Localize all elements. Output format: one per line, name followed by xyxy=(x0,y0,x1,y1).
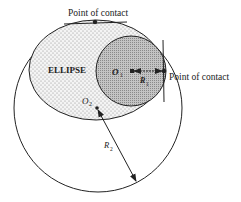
o2-subscript: 2 xyxy=(89,101,92,107)
o1-label: O xyxy=(112,67,119,77)
ellipse-circle-contact-diagram: Point of contact Point of contact ELLIPS… xyxy=(0,0,241,202)
top-contact-label: Point of contact xyxy=(68,8,129,18)
right-contact-point xyxy=(162,69,166,73)
r1-label: R xyxy=(139,76,146,85)
r1-subscript: 1 xyxy=(146,81,149,87)
o1-subscript: 1 xyxy=(120,72,123,78)
top-contact-point xyxy=(93,20,97,24)
r2-subscript: 2 xyxy=(110,146,113,152)
ellipse-label: ELLIPSE xyxy=(48,65,86,75)
o1-center-point xyxy=(130,69,134,73)
o2-label: O xyxy=(82,96,89,106)
o2-center-point xyxy=(95,106,99,110)
r2-label: R xyxy=(103,140,110,150)
right-contact-label: Point of contact xyxy=(169,72,230,82)
